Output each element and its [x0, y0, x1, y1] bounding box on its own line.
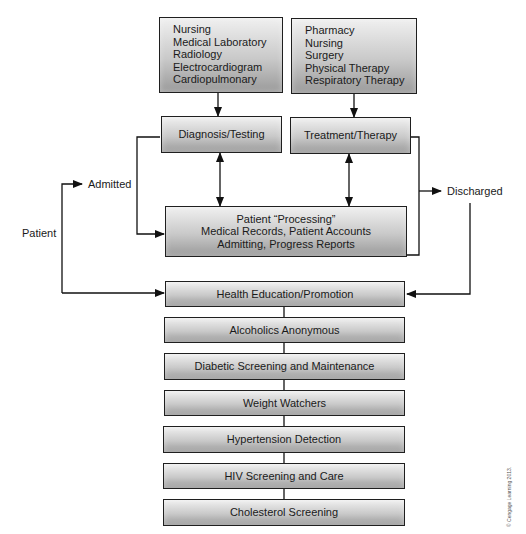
diagnosis-testing-box: Diagnosis/Testing	[161, 116, 282, 153]
list-item: Physical Therapy	[305, 62, 416, 75]
admitted-label: Admitted	[88, 178, 131, 190]
list-item: Medical Laboratory	[173, 36, 282, 49]
patient-processing-box: Patient “Processing” Medical Records, Pa…	[165, 206, 407, 257]
program-box-alcoholics-anonymous: Alcoholics Anonymous	[164, 317, 405, 343]
list-item: Cardiopulmonary	[173, 73, 282, 86]
program-label: HIV Screening and Care	[224, 470, 343, 483]
list-item: Nursing	[173, 23, 282, 36]
program-label: Weight Watchers	[243, 397, 326, 410]
program-label: Hypertension Detection	[227, 433, 341, 446]
copyright-notice: © Cengage Learning 2013.	[506, 467, 512, 527]
program-label: Cholesterol Screening	[230, 506, 338, 519]
program-label: Alcoholics Anonymous	[229, 324, 339, 337]
program-box-diabetic-screening: Diabetic Screening and Maintenance	[164, 353, 405, 380]
program-box-hiv-screening: HIV Screening and Care	[163, 463, 405, 489]
list-item: Electrocardiogram	[173, 61, 282, 74]
processing-title: Patient “Processing”	[236, 213, 335, 226]
program-box-weight-watchers: Weight Watchers	[164, 390, 405, 416]
diagnosis-testing-label: Diagnosis/Testing	[178, 128, 264, 141]
processing-line-2: Medical Records, Patient Accounts	[201, 225, 371, 238]
patient-label: Patient	[22, 227, 56, 239]
tests-departments-box: Nursing Medical Laboratory Radiology Ele…	[159, 17, 283, 93]
program-label: Diabetic Screening and Maintenance	[195, 360, 375, 373]
program-box-cholesterol-screening: Cholesterol Screening	[163, 499, 405, 526]
therapy-departments-box: Pharmacy Nursing Surgery Physical Therap…	[291, 18, 417, 94]
treatment-therapy-label: Treatment/Therapy	[304, 129, 397, 142]
list-item: Respiratory Therapy	[305, 74, 416, 87]
processing-line-3: Admitting, Progress Reports	[217, 238, 355, 251]
program-box-health-education: Health Education/Promotion	[165, 281, 405, 307]
program-box-hypertension-detection: Hypertension Detection	[163, 426, 405, 453]
list-item: Surgery	[305, 49, 416, 62]
list-item: Radiology	[173, 48, 282, 61]
program-label: Health Education/Promotion	[217, 288, 354, 301]
treatment-therapy-box: Treatment/Therapy	[290, 117, 411, 154]
discharged-label: Discharged	[447, 185, 503, 197]
list-item: Pharmacy	[305, 24, 416, 37]
list-item: Nursing	[305, 37, 416, 50]
